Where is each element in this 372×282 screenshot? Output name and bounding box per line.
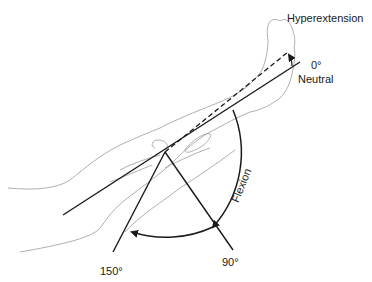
label-neutral-angle: 0° (311, 60, 322, 71)
knee-flexion-diagram (0, 0, 372, 282)
leg-outline (8, 19, 295, 252)
label-neutral: Neutral (298, 74, 333, 85)
flexion-90-line (165, 152, 233, 250)
flexion-arc (213, 110, 241, 227)
hyperextension-arrow-icon (289, 55, 292, 66)
label-angle-90: 90° (222, 257, 239, 268)
hyperextension-line (165, 52, 288, 152)
label-angle-150: 150° (100, 266, 123, 277)
flexion-arc-extended (132, 227, 213, 237)
neutral-axis-line (63, 62, 300, 215)
label-hyperextension: Hyperextension (287, 13, 363, 24)
